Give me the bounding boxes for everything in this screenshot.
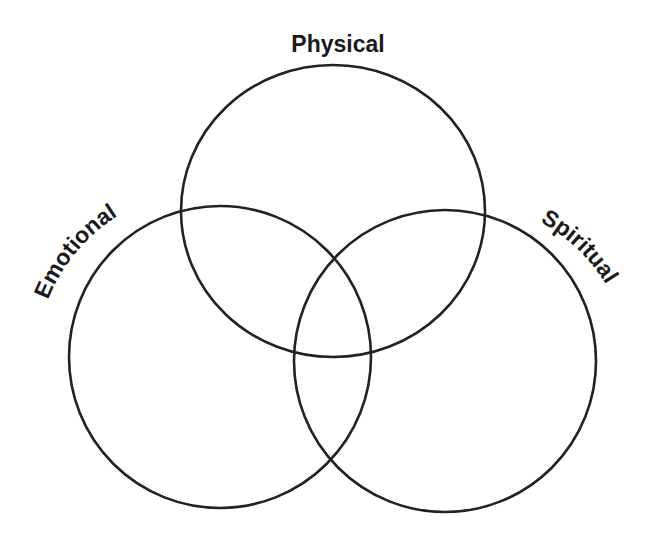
emotional-label: Emotional <box>29 198 121 302</box>
spiritual-circle <box>294 210 596 512</box>
physical-label: Physical <box>291 31 384 57</box>
spiritual-label: Spiritual <box>537 204 623 287</box>
emotional-label-path: Emotional <box>29 198 121 302</box>
venn-diagram: Physical Emotional Spiritual <box>0 0 660 536</box>
spiritual-label-path: Spiritual <box>537 204 623 287</box>
